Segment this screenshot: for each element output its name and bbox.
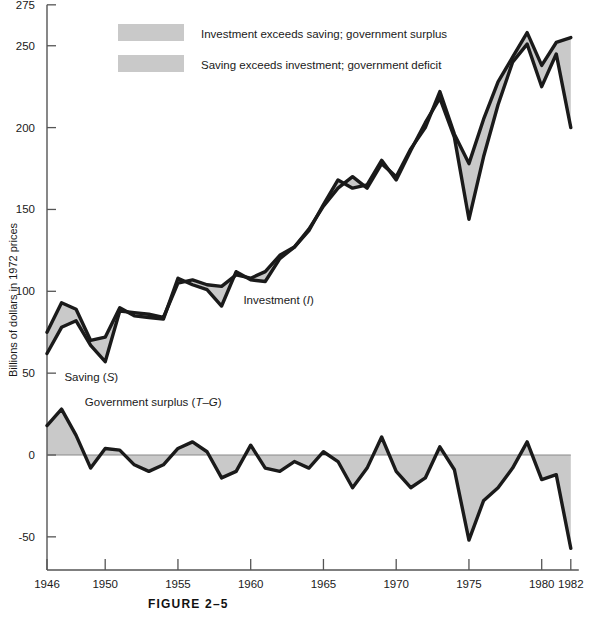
saving-label: Saving (S) [64,371,118,383]
y-axis-title: Billions of dollars in 1972 prices [7,222,19,377]
y-tick-label: 250 [16,40,35,52]
surplus-fill-band [47,409,571,548]
y-tick-label: 0 [29,449,35,461]
y-axis-title-text: Billions of dollars in 1972 prices [7,222,19,377]
figure-caption: FIGURE 2–5 [148,597,229,611]
y-tick-label: 275 [16,0,35,11]
x-tick-label: 1982 [558,578,584,590]
y-tick-label: 50 [22,367,35,379]
x-tick-label: 1946 [34,578,60,590]
figure-container: 275250200150100500-501946195019551960196… [0,0,594,622]
government-surplus-label: Government surplus (T–G) [85,396,222,408]
x-tick-label: 1975 [456,578,482,590]
legend-swatch [118,55,184,72]
chart-canvas: 275250200150100500-501946195019551960196… [0,0,594,622]
x-tick-label: 1965 [311,578,337,590]
legend-label: Saving exceeds investment; government de… [201,59,442,71]
y-tick-label: 200 [16,122,35,134]
y-tick-label: 150 [16,203,35,215]
x-tick-label: 1955 [165,578,191,590]
legend: Investment exceeds saving; government su… [118,24,447,72]
x-tick-label: 1960 [238,578,264,590]
investment-label: Investment (I) [243,294,313,306]
x-tick-label: 1950 [92,578,118,590]
legend-swatch [118,24,184,41]
x-tick-label: 1980 [529,578,555,590]
x-tick-label: 1970 [383,578,409,590]
legend-label: Investment exceeds saving; government su… [201,28,447,40]
y-tick-label: -50 [18,531,35,543]
